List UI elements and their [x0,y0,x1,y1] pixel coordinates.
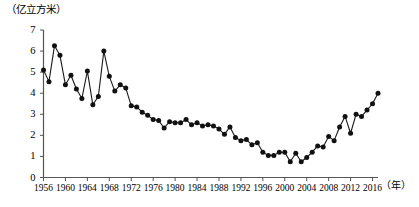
data-point-marker [365,108,370,113]
data-point-marker [107,74,112,79]
data-point-marker [321,144,326,149]
data-point-marker [129,103,134,108]
data-point-marker [57,53,62,58]
data-point-marker [123,85,128,90]
data-point-marker [260,150,265,155]
data-point-marker [222,132,227,137]
data-point-marker [310,150,315,155]
data-point-marker [216,127,221,132]
data-point-marker [370,101,375,106]
y-axis-tick-label: 0 [22,172,36,183]
data-point-marker [277,150,282,155]
data-point-marker [41,68,46,73]
y-axis-tick-label: 2 [22,129,36,140]
data-point-marker [293,151,298,156]
data-point-marker [74,87,79,92]
y-axis-tick-label: 6 [22,45,36,56]
data-point-marker [96,94,101,99]
data-point-marker [189,122,194,127]
data-point-marker [244,137,249,142]
data-point-marker [326,134,331,139]
data-point-marker [271,153,276,158]
data-point-marker [162,125,167,130]
data-point-marker [211,123,216,128]
data-point-marker [195,120,200,125]
data-point-marker [112,89,117,94]
data-point-marker [68,73,73,78]
y-axis-tick-label: 3 [22,108,36,119]
data-point-marker [238,138,243,143]
data-point-marker [282,150,287,155]
data-point-marker [85,69,90,74]
data-point-marker [266,153,271,158]
data-point-marker [354,112,359,117]
data-point-marker [359,114,364,119]
data-point-marker [79,96,84,101]
data-point-marker [255,140,260,145]
y-axis-tick-label: 5 [22,66,36,77]
data-point-marker [315,143,320,148]
data-point-marker [288,159,293,164]
data-point-marker [140,110,145,115]
data-point-marker [233,135,238,140]
data-point-marker [173,120,178,125]
data-point-marker [348,131,353,136]
data-point-marker [118,82,123,87]
data-point-marker [46,79,51,84]
data-point-marker [90,102,95,107]
data-point-marker [299,159,304,164]
line-chart-plot [0,0,419,207]
data-point-marker [184,117,189,122]
data-point-marker [101,49,106,54]
data-point-marker [52,43,57,48]
data-point-marker [332,138,337,143]
data-point-marker [376,91,381,96]
data-series-markers [41,43,381,164]
x-axis-tick-label: 2016 [358,183,388,194]
data-point-marker [227,124,232,129]
data-point-marker [63,82,68,87]
data-point-marker [178,120,183,125]
chart-container: （亿立方米） （年） 01234567 19561960196419681972… [0,0,419,207]
data-point-marker [145,113,150,118]
y-axis-tick-label: 1 [22,150,36,161]
data-point-marker [304,155,309,160]
data-point-marker [151,117,156,122]
y-axis-tick-label: 7 [22,24,36,35]
data-point-marker [343,114,348,119]
data-point-marker [337,124,342,129]
data-point-marker [167,119,172,124]
data-point-marker [156,118,161,123]
data-point-marker [200,123,205,128]
data-point-marker [134,104,139,109]
data-point-marker [206,122,211,127]
y-axis-tick-label: 4 [22,87,36,98]
data-point-marker [249,142,254,147]
